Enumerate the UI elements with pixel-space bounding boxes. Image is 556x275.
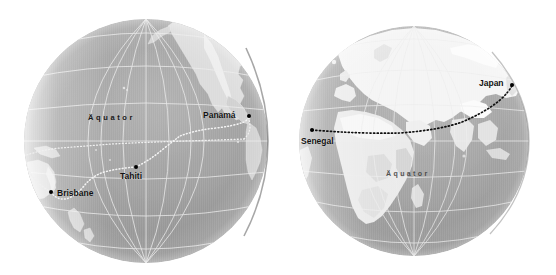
afroeurasia-globe: Äquator Japan Senegal: [0, 0, 556, 275]
afroeurasia-globe-body: [299, 26, 529, 256]
scanline-texture: [299, 26, 529, 256]
afroeurasia-globe-graphic: [0, 0, 556, 275]
figure-canvas: Äquator Panamá Tahiti Brisbane: [0, 0, 556, 275]
